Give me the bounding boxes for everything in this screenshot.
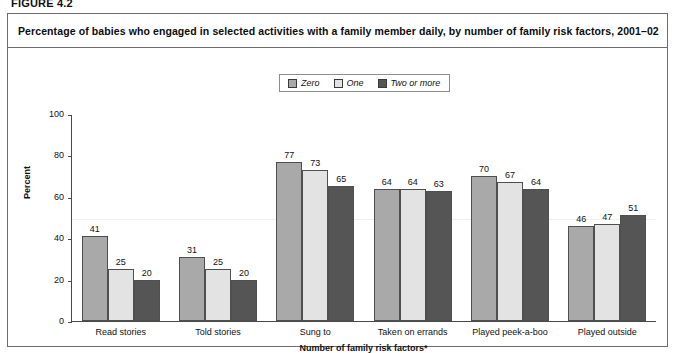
- y-axis-tick-label: 60: [42, 192, 64, 202]
- bar-group: 312520Told stories: [169, 115, 266, 321]
- bar-column: 65: [328, 115, 354, 321]
- bar-group-bars: 412520: [72, 115, 169, 321]
- bar-group: 464751Played outside: [559, 115, 656, 321]
- x-axis-category-label: Played outside: [578, 327, 637, 337]
- bar[interactable]: 25: [108, 269, 134, 321]
- bar-value-label: 20: [142, 268, 152, 278]
- bar[interactable]: 31: [179, 257, 205, 321]
- bar-column: 67: [497, 115, 523, 321]
- bar-value-label: 25: [213, 257, 223, 267]
- bar-value-label: 73: [310, 158, 320, 168]
- figure-label: FIGURE 4.2: [11, 0, 73, 9]
- bar[interactable]: 51: [620, 215, 646, 321]
- bar-value-label: 47: [602, 212, 612, 222]
- bar-group: 412520Read stories: [72, 115, 169, 321]
- bar[interactable]: 77: [276, 162, 302, 321]
- bar-column: 41: [82, 115, 108, 321]
- bar-value-label: 65: [336, 174, 346, 184]
- bar-value-label: 46: [576, 214, 586, 224]
- bar[interactable]: 67: [497, 182, 523, 321]
- bar-column: 31: [179, 115, 205, 321]
- y-axis-tick-label: 20: [42, 275, 64, 285]
- bar[interactable]: 20: [134, 280, 160, 321]
- bar-column: 20: [134, 115, 160, 321]
- bar-group-bars: 706764: [461, 115, 558, 321]
- bar[interactable]: 73: [302, 170, 328, 321]
- plot-wrapper: Percent 020406080100 412520Read stories3…: [8, 14, 667, 346]
- bar-value-label: 64: [382, 177, 392, 187]
- bar-group-bars: 464751: [559, 115, 656, 321]
- bar-value-label: 64: [408, 177, 418, 187]
- y-axis-tick-label: 0: [42, 316, 64, 326]
- x-axis-category-label: Read stories: [95, 327, 146, 337]
- bar-column: 77: [276, 115, 302, 321]
- x-axis-category-label: Sung to: [300, 327, 331, 337]
- bar[interactable]: 20: [231, 280, 257, 321]
- bar-value-label: 25: [116, 257, 126, 267]
- bar-groups: 412520Read stories312520Told stories7773…: [72, 115, 656, 321]
- bar-value-label: 41: [90, 224, 100, 234]
- bar-group: 706764Played peek-a-boo: [461, 115, 558, 321]
- x-axis-category-label: Played peek-a-boo: [472, 327, 548, 337]
- bar-column: 51: [620, 115, 646, 321]
- x-axis-title: Number of family risk factors*: [71, 343, 656, 353]
- bar-group-bars: 777365: [267, 115, 364, 321]
- y-axis-tick-label: 80: [42, 150, 64, 160]
- bar[interactable]: 46: [568, 226, 594, 321]
- bar-group-bars: 312520: [169, 115, 266, 321]
- bar[interactable]: 65: [328, 186, 354, 321]
- bar-group: 646463Taken on errands: [364, 115, 461, 321]
- bar-value-label: 31: [187, 245, 197, 255]
- y-axis-title: Percent: [22, 166, 32, 199]
- plot-area: 020406080100 412520Read stories312520Tol…: [71, 115, 656, 322]
- x-axis-category-label: Taken on errands: [378, 327, 448, 337]
- bar-value-label: 63: [434, 179, 444, 189]
- bar-column: 25: [205, 115, 231, 321]
- bar-column: 64: [374, 115, 400, 321]
- bar[interactable]: 64: [374, 189, 400, 321]
- bar-value-label: 51: [628, 203, 638, 213]
- bar-column: 64: [523, 115, 549, 321]
- bar-column: 73: [302, 115, 328, 321]
- bar-column: 20: [231, 115, 257, 321]
- bar[interactable]: 25: [205, 269, 231, 321]
- figure-frame: Percentage of babies who engaged in sele…: [7, 13, 668, 347]
- y-axis-tick-mark: [68, 322, 72, 323]
- bar-group: 777365Sung to: [267, 115, 364, 321]
- bar-column: 47: [594, 115, 620, 321]
- y-axis-tick-label: 100: [42, 109, 64, 119]
- bar-group-bars: 646463: [364, 115, 461, 321]
- bar-value-label: 64: [531, 177, 541, 187]
- bar[interactable]: 63: [426, 191, 452, 321]
- bar[interactable]: 64: [523, 189, 549, 321]
- bar-value-label: 70: [479, 164, 489, 174]
- bar-column: 46: [568, 115, 594, 321]
- bar-value-label: 20: [239, 268, 249, 278]
- x-axis-category-label: Told stories: [195, 327, 241, 337]
- bar[interactable]: 47: [594, 224, 620, 321]
- y-axis-tick-label: 40: [42, 233, 64, 243]
- bar[interactable]: 41: [82, 236, 108, 321]
- bar-column: 63: [426, 115, 452, 321]
- bar-value-label: 67: [505, 170, 515, 180]
- bar-column: 64: [400, 115, 426, 321]
- bar-value-label: 77: [284, 150, 294, 160]
- bar[interactable]: 64: [400, 189, 426, 321]
- bar[interactable]: 70: [471, 176, 497, 321]
- bar-column: 25: [108, 115, 134, 321]
- bar-column: 70: [471, 115, 497, 321]
